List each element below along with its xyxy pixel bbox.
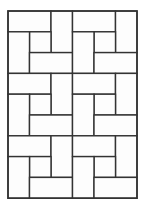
block-r1-c2 [73,11,138,73]
top-horizontal-rect [73,11,116,32]
top-horizontal-rect [8,73,51,94]
right-vertical-rect [116,11,138,53]
right-vertical-rect [116,73,138,115]
right-vertical-rect [51,11,73,53]
block-r2-c1 [8,73,73,135]
center-square [94,32,116,53]
right-vertical-rect [51,73,73,115]
bottom-horizontal-rect [30,115,73,136]
center-square [30,32,52,53]
top-horizontal-rect [73,73,116,94]
top-horizontal-rect [73,136,116,157]
left-vertical-rect [8,32,30,74]
bottom-horizontal-rect [94,53,137,74]
block-r2-c2 [73,73,138,135]
bottom-horizontal-rect [94,115,137,136]
left-vertical-rect [73,94,95,136]
block-r1-c1 [8,11,73,73]
center-square [94,94,116,115]
bottom-horizontal-rect [94,177,137,198]
left-vertical-rect [73,157,95,199]
top-horizontal-rect [8,136,51,157]
pinwheel-tiling-diagram [0,0,145,200]
left-vertical-rect [73,32,95,74]
center-square [94,157,116,178]
center-square [30,94,52,115]
bottom-horizontal-rect [30,53,73,74]
bottom-horizontal-rect [30,177,73,198]
left-vertical-rect [8,94,30,136]
center-square [30,157,52,178]
left-vertical-rect [8,157,30,199]
right-vertical-rect [51,136,73,178]
block-r3-c1 [8,136,73,198]
block-r3-c2 [73,136,138,198]
right-vertical-rect [116,136,138,178]
top-horizontal-rect [8,11,51,32]
tiles-layer [8,11,137,198]
